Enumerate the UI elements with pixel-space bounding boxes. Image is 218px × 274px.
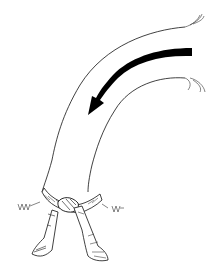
fray-right xyxy=(102,204,124,212)
belt-end-right xyxy=(74,206,108,261)
belt-illustration xyxy=(0,0,218,274)
band-inner-fray xyxy=(185,78,205,92)
band-top-fray xyxy=(185,14,204,27)
belt-end-left xyxy=(32,210,58,256)
fray-left xyxy=(18,202,40,210)
illustration-canvas xyxy=(0,0,218,274)
